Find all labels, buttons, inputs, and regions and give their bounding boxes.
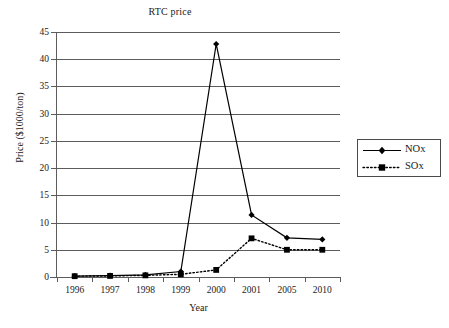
y-tick-label: 5 [19,245,49,255]
y-axis-title: Price ($1000/ton) [14,68,25,188]
legend-label-nox: NOx [405,143,425,154]
y-tick-label: 15 [19,190,49,200]
data-point-sox [213,267,219,273]
chart-legend: NOx SOx [357,139,441,177]
y-tick-label: 45 [19,27,49,37]
legend-line-sample-sox [362,159,402,176]
legend-item-nox[interactable]: NOx [358,142,442,159]
x-tick-mark [269,277,270,282]
plot-area [57,32,340,277]
data-point-sox [178,271,184,277]
series-plot [57,32,340,277]
data-point-nox [248,212,254,218]
legend-item-sox[interactable]: SOx [358,159,442,176]
x-axis-title: Year [57,302,340,313]
x-tick-mark [340,277,341,282]
x-tick-mark [57,277,58,282]
legend-line-sample-nox [362,142,402,159]
x-tick-mark [305,277,306,282]
data-point-nox [284,235,290,241]
y-tick-label: 0 [19,272,49,282]
data-point-sox [249,235,255,241]
x-tick-mark [234,277,235,282]
chart-page: RTC price 051015202530354045 19961997199… [0,0,449,328]
data-point-sox [319,247,325,253]
x-tick-mark [92,277,93,282]
y-tick-label: 40 [19,54,49,64]
chart-title: RTC price [0,6,340,17]
x-tick-mark [199,277,200,282]
x-tick-mark [128,277,129,282]
series-line-sox [75,238,323,276]
legend-label-sox: SOx [405,160,424,171]
x-tick-label: 2010 [299,285,345,295]
data-point-sox [143,272,149,278]
data-point-sox [107,273,113,279]
y-axis-ticks: 051015202530354045 [0,0,49,328]
data-point-sox [284,247,290,253]
data-point-sox [72,273,78,279]
series-line-nox [75,44,323,276]
data-point-nox [213,41,219,47]
x-tick-mark [163,277,164,282]
y-tick-label: 10 [19,218,49,228]
data-point-nox [319,236,325,242]
